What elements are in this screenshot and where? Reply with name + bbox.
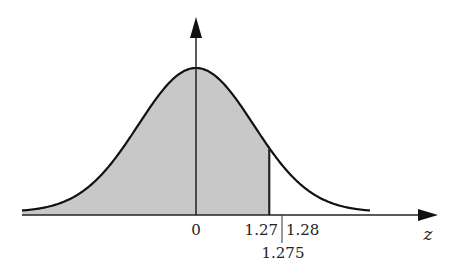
tick-label-1-275: 1.275 xyxy=(262,244,305,262)
z-axis-label: z xyxy=(423,224,434,244)
tick-label-zero: 0 xyxy=(191,221,201,239)
normal-curve-diagram: 0 1.27 1.28 1.275 z xyxy=(0,0,454,279)
right-arrow-icon xyxy=(418,209,438,221)
tick-label-1-28: 1.28 xyxy=(286,221,319,239)
tick-label-1-27: 1.27 xyxy=(245,221,278,239)
up-arrow-icon xyxy=(190,17,202,38)
shaded-area xyxy=(22,68,269,215)
